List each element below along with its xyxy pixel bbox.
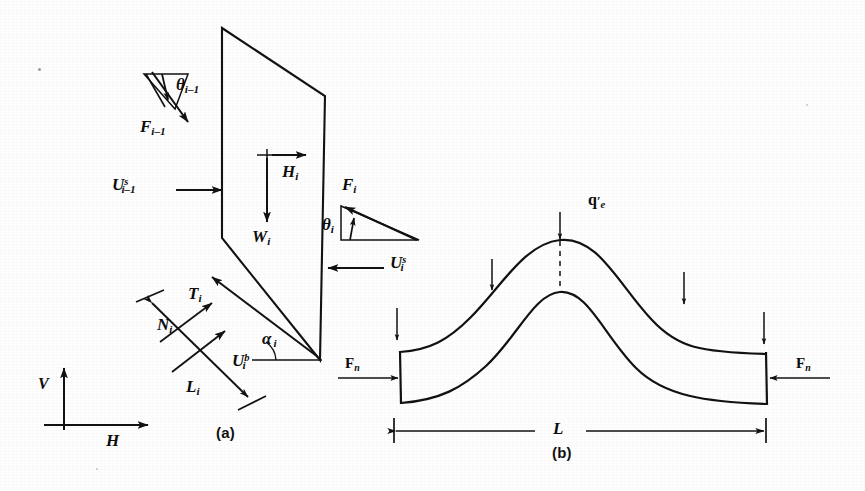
- label-water-side-prev: Usi–1: [112, 176, 136, 195]
- figure-root: θi–1 Fi–1 Usi–1 Hi Wi Fi θi Usi Ti Ni Ub…: [0, 0, 865, 491]
- arch-load-arrows: [397, 212, 764, 344]
- label-weight: Wi: [252, 228, 270, 247]
- span-dimension: [394, 418, 766, 443]
- label-alpha: αi: [262, 330, 277, 349]
- label-force-prev: Fi–1: [140, 118, 166, 137]
- label-axis-vertical: V: [38, 376, 49, 392]
- panel-b-caption: (b): [552, 444, 572, 461]
- scan-speck: [96, 468, 98, 470]
- label-normal-base: Ni: [157, 316, 172, 335]
- label-force-next: Fi: [342, 176, 356, 195]
- label-thrust-left: Fn: [345, 356, 360, 373]
- weight-and-horizontal-arrows: [257, 149, 306, 222]
- label-water-side-next: Usi: [390, 254, 404, 273]
- label-theta-prev: θi–1: [176, 76, 199, 95]
- label-thrust-right: Fn: [796, 356, 811, 373]
- label-theta-next: θi: [322, 216, 334, 235]
- panel-a-caption: (a): [216, 424, 235, 441]
- scan-speck: [38, 68, 41, 71]
- scan-speck: [806, 104, 808, 106]
- label-horizontal-force: Hi: [282, 163, 298, 182]
- label-surcharge: q′e: [588, 192, 605, 211]
- base-length-dimension: [136, 290, 266, 410]
- label-shear-base: Ti: [188, 285, 202, 304]
- slice-body: [222, 28, 325, 360]
- reference-axes: [44, 368, 148, 430]
- figure-canvas: [0, 0, 865, 491]
- force-next-triangle: [341, 206, 419, 240]
- arch-body: [400, 240, 767, 405]
- label-axis-horizontal: H: [106, 432, 119, 449]
- label-base-length: Li: [186, 378, 200, 397]
- label-span: L: [553, 420, 563, 437]
- label-water-base: Ubi: [232, 352, 246, 371]
